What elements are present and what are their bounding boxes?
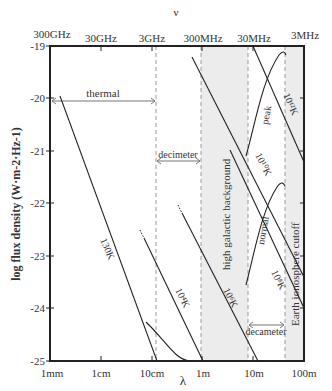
label-peak: peak <box>259 105 273 126</box>
bottom-axis-title: λ <box>180 373 187 388</box>
label-10-4k: 10⁴K <box>173 286 192 310</box>
svg-text:-22: -22 <box>30 197 45 209</box>
galactic-background-label: high galactic background <box>220 158 232 270</box>
svg-text:100m: 100m <box>291 367 317 379</box>
thermal-label: thermal <box>86 87 120 99</box>
label-130k: 130K <box>98 236 117 261</box>
svg-text:-25: -25 <box>30 355 45 367</box>
svg-text:-23: -23 <box>30 250 45 262</box>
svg-text:10cm: 10cm <box>140 367 165 379</box>
temperature-labels: 130K 10⁴K 10⁶K 10⁸K 10¹⁰K 10¹²K peak nor… <box>98 91 301 310</box>
top-tick-labels: 300GHz 30GHz 3GHz 300MHz 30MHz 3MHz <box>33 28 319 44</box>
svg-text:1mm: 1mm <box>41 367 64 379</box>
svg-text:-19: -19 <box>30 40 45 52</box>
svg-text:-20: -20 <box>30 92 45 104</box>
dotted-line-extensions <box>140 205 182 238</box>
svg-text:10m: 10m <box>244 367 264 379</box>
top-axis-title: ν <box>174 6 179 18</box>
svg-text:-24: -24 <box>30 302 45 314</box>
svg-text:3MHz: 3MHz <box>291 29 319 41</box>
svg-text:30GHz: 30GHz <box>85 32 117 44</box>
svg-text:300MHz: 300MHz <box>183 32 222 44</box>
label-10-10k: 10¹⁰K <box>253 151 274 178</box>
y-ticks <box>46 46 304 361</box>
svg-text:300GHz: 300GHz <box>33 28 70 40</box>
label-normal: normal <box>255 215 271 245</box>
svg-text:1cm: 1cm <box>92 367 111 379</box>
y-axis-title: log flux density (W·m-2·Hz-1) <box>9 127 23 281</box>
range-arrows <box>52 98 284 328</box>
svg-text:3GHz: 3GHz <box>139 32 165 44</box>
ionosphere-cutoff-label: Earth ionosphere cutoff <box>289 222 301 326</box>
x-tick-labels: 1mm 1cm 10cm 1m 10m 100m <box>41 367 317 379</box>
svg-text:1m: 1m <box>196 367 211 379</box>
decameter-label: decameter <box>245 326 287 337</box>
svg-text:30MHz: 30MHz <box>237 32 271 44</box>
y-tick-labels: -19 -20 -21 -22 -23 -24 -25 <box>30 40 45 367</box>
flux-density-chart: -19 -20 -21 -22 -23 -24 -25 1mm 1cm 10cm… <box>0 0 332 391</box>
decimeter-label: decimeter <box>158 149 198 160</box>
svg-text:-21: -21 <box>30 145 45 157</box>
